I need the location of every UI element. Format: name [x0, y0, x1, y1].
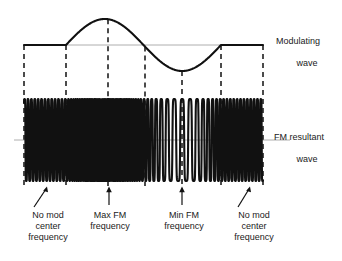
arrow-no-mod-center-frequency-right	[238, 187, 251, 208]
arrow-no-mod-center-frequency-left	[34, 187, 48, 208]
label-min-fm-frequency: Min FM frequency	[152, 210, 216, 232]
arrow-max-fm-frequency	[106, 187, 112, 206]
label-no-mod-center-frequency-right: No mod center frequency	[218, 210, 290, 243]
label-no-mod-center-frequency-left: No mod center frequency	[12, 210, 84, 243]
modulating-wave-group	[24, 19, 263, 71]
label-modulating-wave-line2: wave	[276, 58, 338, 69]
label-fm-resultant-wave-line1: FM resultant	[274, 132, 340, 143]
label-modulating-wave: Modulating wave	[276, 25, 338, 80]
label-fm-resultant-wave: FM resultant wave	[274, 121, 340, 176]
fm-resultant-wave-group	[14, 99, 290, 181]
label-max-fm-frequency: Max FM frequency	[78, 210, 142, 232]
fm-resultant-wave-path	[24, 99, 263, 181]
modulating-wave-path	[24, 19, 263, 71]
label-modulating-wave-line1: Modulating	[276, 36, 338, 47]
label-fm-resultant-wave-line2: wave	[274, 154, 340, 165]
fm-modulation-figure: Modulating wave FM resultant wave No mod…	[0, 0, 342, 261]
annotation-arrows-group	[34, 187, 251, 208]
arrow-min-fm-frequency	[179, 187, 185, 206]
